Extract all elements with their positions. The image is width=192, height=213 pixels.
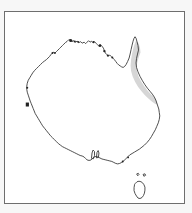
coast-mark-north-1	[69, 39, 72, 42]
coast-mark-southeast-2	[127, 157, 129, 159]
map-frame-border	[4, 11, 185, 204]
spencer-gulf-inlet	[92, 150, 95, 158]
coast-mark-north-2	[74, 40, 76, 42]
flinders-island-icon	[143, 174, 145, 176]
coast-mark-west-upper	[26, 87, 28, 89]
coast-mark-north-3	[77, 41, 79, 43]
coast-mark-north-4	[92, 41, 94, 43]
bass-strait-island-icon	[137, 173, 139, 175]
coast-mark-north-5	[99, 44, 102, 47]
coast-mark-northwest-2	[54, 52, 56, 54]
australia-mainland-coastline-path	[27, 37, 160, 164]
coast-mark-northwest-1	[51, 52, 53, 54]
figure-page	[0, 0, 192, 213]
coast-mark-gulf-2	[107, 54, 109, 56]
coast-mark-west-shark-bay	[26, 103, 29, 107]
tasmania-coastline-path	[134, 181, 145, 198]
coast-mark-gulf-1	[103, 50, 105, 52]
gulf-st-vincent-inlet	[96, 151, 98, 158]
australia-map-svg	[5, 12, 184, 203]
coast-mark-southeast-1	[122, 160, 124, 162]
coast-mark-gulf-3	[111, 57, 113, 59]
